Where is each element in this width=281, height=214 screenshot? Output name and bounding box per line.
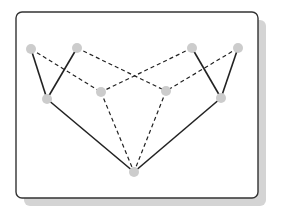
node-mid-inner-right xyxy=(161,86,171,96)
graph-diagram xyxy=(0,0,281,214)
node-mid-right xyxy=(216,93,226,103)
node-top-2 xyxy=(72,43,82,53)
node-mid-left xyxy=(42,94,52,104)
node-top-3 xyxy=(187,43,197,53)
node-top-1 xyxy=(26,44,36,54)
node-top-4 xyxy=(233,43,243,53)
node-bottom xyxy=(129,167,139,177)
node-mid-inner-left xyxy=(96,87,106,97)
diagram-canvas xyxy=(0,0,281,214)
